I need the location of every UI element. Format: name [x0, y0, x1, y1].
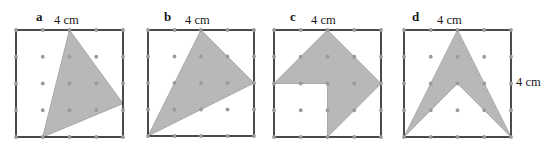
grid-dot: [402, 55, 406, 59]
grid-dot: [482, 108, 486, 112]
grid-dot: [456, 108, 460, 112]
grid-dot: [509, 55, 513, 59]
grid-dot: [482, 55, 486, 59]
panel-d: d4 cm4 cm: [0, 0, 546, 150]
grid-dot: [482, 82, 486, 86]
grid-dot: [429, 135, 433, 139]
grid-dot: [482, 135, 486, 139]
grid-dot: [402, 28, 406, 32]
grid-dot: [429, 55, 433, 59]
top-dimension-label-d: 4 cm: [437, 14, 462, 27]
grid-dot: [456, 55, 460, 59]
panel-letter-d: d: [412, 10, 419, 23]
grid-dot: [402, 135, 406, 139]
side-dimension-label-d: 4 cm: [516, 76, 541, 89]
grid-dot: [456, 28, 460, 32]
grid-dot: [456, 82, 460, 86]
grid-dot: [402, 108, 406, 112]
grid-dot: [482, 28, 486, 32]
dot-grid-square-d: [400, 26, 515, 141]
grid-dot: [509, 108, 513, 112]
grid-dot: [429, 108, 433, 112]
geometry-figure: a4 cmb4 cmc4 cmd4 cm4 cm: [0, 0, 546, 150]
grid-dot: [509, 135, 513, 139]
grid-dot: [429, 82, 433, 86]
grid-dot: [509, 28, 513, 32]
grid-dot: [456, 135, 460, 139]
grid-dot: [509, 82, 513, 86]
grid-dot: [429, 28, 433, 32]
grid-dot: [402, 82, 406, 86]
